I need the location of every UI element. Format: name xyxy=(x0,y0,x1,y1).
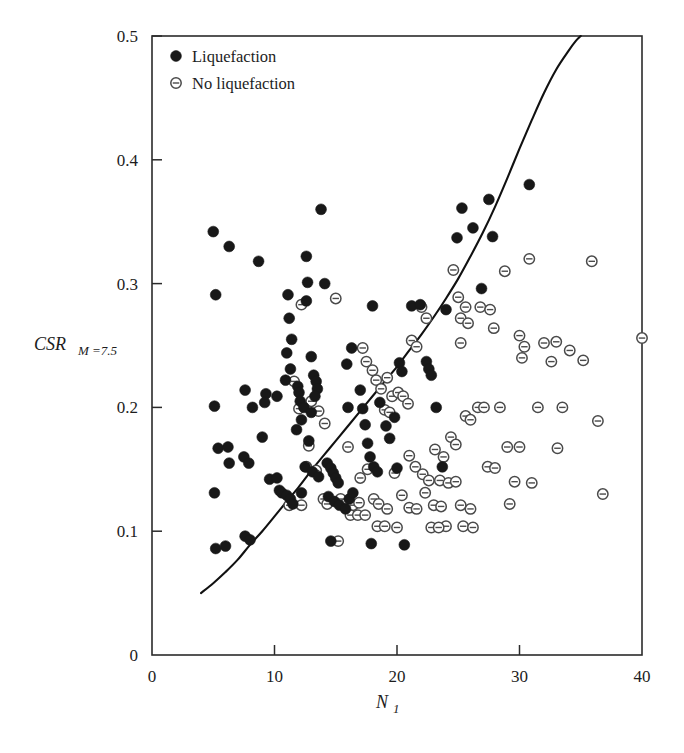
data-point-liquefaction xyxy=(333,478,344,489)
data-point-liquefaction xyxy=(457,203,468,214)
data-point-no-liquefaction xyxy=(382,372,392,382)
y-tick-label: 0.2 xyxy=(117,398,138,417)
data-point-liquefaction xyxy=(381,421,392,432)
data-point-no-liquefaction xyxy=(505,499,515,509)
data-point-no-liquefaction xyxy=(519,342,529,352)
data-point-liquefaction xyxy=(365,452,376,463)
data-point-no-liquefaction xyxy=(524,254,534,264)
y-tick-label: 0.4 xyxy=(117,151,139,170)
x-axis-title-main: N xyxy=(375,692,389,712)
data-point-liquefaction xyxy=(247,402,258,413)
legend-label: No liquefaction xyxy=(192,74,295,93)
x-tick-label: 30 xyxy=(511,667,528,686)
data-point-liquefaction xyxy=(259,397,270,408)
data-point-liquefaction xyxy=(224,241,235,252)
data-point-liquefaction xyxy=(372,466,383,477)
data-point-liquefaction xyxy=(253,256,264,267)
data-point-no-liquefaction xyxy=(475,302,485,312)
data-point-no-liquefaction xyxy=(495,402,505,412)
data-point-no-liquefaction xyxy=(465,415,475,425)
scatter-plot: 00.10.20.30.40.5 010203040 CSR M =7.5 N … xyxy=(0,0,684,753)
figure-container: 00.10.20.30.40.5 010203040 CSR M =7.5 N … xyxy=(0,0,684,753)
data-point-liquefaction xyxy=(319,278,330,289)
data-point-no-liquefaction xyxy=(502,442,512,452)
x-axis-title-subscript: 1 xyxy=(393,701,400,716)
data-point-no-liquefaction xyxy=(430,444,440,454)
data-point-liquefaction xyxy=(325,536,336,547)
data-point-liquefaction xyxy=(316,204,327,215)
data-point-liquefaction xyxy=(240,385,251,396)
data-point-no-liquefaction xyxy=(514,330,524,340)
data-point-no-liquefaction xyxy=(557,402,567,412)
data-point-liquefaction xyxy=(374,397,385,408)
data-point-liquefaction xyxy=(286,334,297,345)
data-point-liquefaction xyxy=(209,487,220,498)
data-point-no-liquefaction xyxy=(382,504,392,514)
data-point-liquefaction xyxy=(281,348,292,359)
data-point-no-liquefaction xyxy=(479,402,489,412)
data-point-no-liquefaction xyxy=(565,345,575,355)
data-point-no-liquefaction xyxy=(451,439,461,449)
data-point-liquefaction xyxy=(245,534,256,545)
data-point-no-liquefaction xyxy=(593,416,603,426)
data-point-liquefaction xyxy=(306,351,317,362)
data-point-no-liquefaction xyxy=(360,510,370,520)
data-point-no-liquefaction xyxy=(489,323,499,333)
data-point-liquefaction xyxy=(313,471,324,482)
x-axis-title: N 1 xyxy=(375,692,400,716)
data-point-liquefaction xyxy=(209,401,220,412)
x-tick-label: 40 xyxy=(634,667,651,686)
data-point-liquefaction xyxy=(431,402,442,413)
data-point-liquefaction xyxy=(272,391,283,402)
data-point-no-liquefaction xyxy=(637,333,647,343)
data-point-liquefaction xyxy=(452,232,463,243)
data-point-no-liquefaction xyxy=(465,504,475,514)
data-point-liquefaction xyxy=(483,194,494,205)
y-tick-label: 0.1 xyxy=(117,522,138,541)
data-point-liquefaction xyxy=(296,487,307,498)
data-point-no-liquefaction xyxy=(320,418,330,428)
caption-strip xyxy=(0,722,684,753)
data-point-no-liquefaction xyxy=(539,338,549,348)
data-point-liquefaction xyxy=(397,366,408,377)
data-point-liquefaction xyxy=(355,385,366,396)
data-point-no-liquefaction xyxy=(411,342,421,352)
data-point-no-liquefaction xyxy=(433,522,443,532)
data-point-liquefaction xyxy=(392,463,403,474)
y-tick-label: 0.3 xyxy=(117,275,138,294)
data-point-no-liquefaction xyxy=(517,353,527,363)
data-point-no-liquefaction xyxy=(354,498,364,508)
data-point-no-liquefaction xyxy=(380,521,390,531)
data-point-liquefaction xyxy=(310,391,321,402)
data-point-no-liquefaction xyxy=(436,501,446,511)
data-point-no-liquefaction xyxy=(404,450,414,460)
data-point-liquefaction xyxy=(441,304,452,315)
data-point-no-liquefaction xyxy=(514,442,524,452)
data-point-liquefaction xyxy=(476,283,487,294)
data-point-no-liquefaction xyxy=(578,355,588,365)
data-point-no-liquefaction xyxy=(403,398,413,408)
data-point-no-liquefaction xyxy=(552,443,562,453)
data-point-liquefaction xyxy=(224,458,235,469)
data-point-no-liquefaction xyxy=(456,500,466,510)
data-point-liquefaction xyxy=(291,424,302,435)
data-point-no-liquefaction xyxy=(355,473,365,483)
data-point-no-liquefaction xyxy=(421,313,431,323)
data-point-no-liquefaction xyxy=(460,302,470,312)
data-point-liquefaction xyxy=(287,499,298,510)
data-point-liquefaction xyxy=(524,179,535,190)
data-point-liquefaction xyxy=(220,541,231,552)
data-point-no-liquefaction xyxy=(463,318,473,328)
data-point-liquefaction xyxy=(384,433,395,444)
data-point-no-liquefaction xyxy=(451,476,461,486)
data-point-liquefaction xyxy=(367,300,378,311)
data-point-liquefaction xyxy=(223,442,234,453)
y-axis-title: CSR M =7.5 xyxy=(34,334,118,358)
data-point-liquefaction xyxy=(348,487,359,498)
data-point-no-liquefaction xyxy=(551,337,561,347)
data-point-liquefaction xyxy=(284,313,295,324)
data-point-liquefaction xyxy=(437,461,448,472)
data-point-no-liquefaction xyxy=(509,476,519,486)
y-axis-title-main: CSR xyxy=(34,334,66,354)
data-point-liquefaction xyxy=(301,296,312,307)
